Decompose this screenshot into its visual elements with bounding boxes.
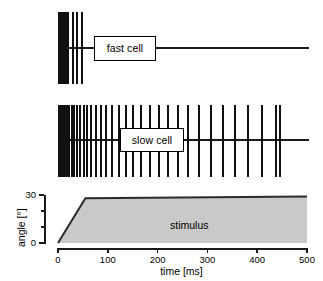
fast-cell-raster xyxy=(0,0,323,95)
x-tick xyxy=(207,248,209,253)
spike-mark xyxy=(79,105,81,177)
spike-mark xyxy=(247,105,249,177)
y-tick-label: 0 xyxy=(12,238,36,248)
figure-canvas: fast cell slow cell angle [°] stimulus 0… xyxy=(0,0,323,281)
spike-mark xyxy=(90,105,92,177)
x-tick xyxy=(157,248,159,253)
x-tick-label: 200 xyxy=(138,255,178,265)
spike-mark xyxy=(222,105,224,177)
x-tick xyxy=(256,248,258,253)
x-tick xyxy=(57,248,59,253)
slow-cell-label-box: slow cell xyxy=(120,128,184,152)
spike-mark xyxy=(76,12,78,84)
spike-mark xyxy=(275,105,277,177)
x-tick xyxy=(306,248,308,253)
spike-mark xyxy=(73,105,75,177)
x-tick-label: 100 xyxy=(88,255,128,265)
x-tick-label: 500 xyxy=(287,255,323,265)
spike-mark xyxy=(83,105,85,177)
fast-cell-label-text: fast cell xyxy=(107,43,144,54)
y-tick-label: 30 xyxy=(12,190,36,200)
y-tick xyxy=(39,242,44,244)
spike-mark xyxy=(187,105,189,177)
x-tick xyxy=(107,248,109,253)
stimulus-panel: angle [°] stimulus 0100200300400500030 t… xyxy=(0,185,323,281)
fast-cell-label-box: fast cell xyxy=(94,36,156,61)
x-tick-label: 0 xyxy=(38,255,78,265)
spike-mark xyxy=(100,105,102,177)
slow-cell-label-text: slow cell xyxy=(132,135,173,146)
spike-mark xyxy=(72,12,74,84)
spike-mark xyxy=(111,105,113,177)
spike-mark xyxy=(279,105,281,177)
y-minor-tick xyxy=(41,210,45,212)
x-tick-label: 300 xyxy=(187,255,227,265)
spike-mark xyxy=(261,105,263,177)
spike-mark xyxy=(234,105,236,177)
spike-mark xyxy=(210,105,212,177)
y-tick xyxy=(39,194,44,196)
y-minor-tick xyxy=(41,226,45,228)
stimulus-annotation: stimulus xyxy=(170,220,209,231)
x-axis-line xyxy=(57,248,308,250)
spike-mark xyxy=(198,105,200,177)
spike-mark xyxy=(76,105,78,177)
spike-mark xyxy=(81,12,83,84)
x-tick-label: 400 xyxy=(237,255,277,265)
spike-mark xyxy=(95,105,97,177)
x-axis-label: time [ms] xyxy=(20,266,323,277)
spike-mark xyxy=(67,12,69,84)
spike-mark xyxy=(105,105,107,177)
spike-mark xyxy=(86,105,88,177)
y-axis-line xyxy=(44,195,46,244)
